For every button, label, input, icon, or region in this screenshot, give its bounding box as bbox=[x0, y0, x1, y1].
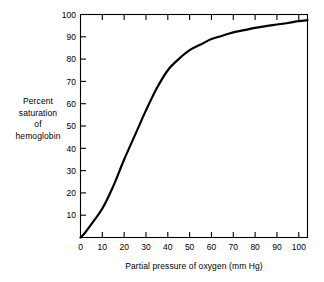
y-tick-label: 40 bbox=[67, 144, 77, 154]
y-axis-title-line-2: saturation bbox=[2, 108, 74, 120]
y-tick-label: 20 bbox=[67, 188, 77, 198]
data-curve-path bbox=[81, 20, 308, 237]
x-tick-label: 20 bbox=[119, 242, 129, 252]
y-axis-title-line-1: Percent bbox=[2, 96, 74, 108]
x-tick-label: 60 bbox=[207, 242, 217, 252]
y-tick-label: 70 bbox=[67, 77, 77, 87]
x-axis-title: Partial pressure of oxygen (mm Hg) bbox=[80, 261, 308, 271]
y-axis-title: Percent saturation of hemoglobin bbox=[2, 96, 74, 142]
oxygen-dissociation-chart: Percent saturation of hemoglobin Partial… bbox=[0, 0, 324, 282]
x-axis-tick-labels: 0102030405060708090100 bbox=[78, 242, 306, 252]
x-tick-label: 50 bbox=[185, 242, 195, 252]
y-axis-title-line-4: hemoglobin bbox=[2, 131, 74, 143]
y-axis-title-line-3: of bbox=[2, 119, 74, 131]
x-tick-label: 100 bbox=[292, 242, 306, 252]
y-tick-label: 30 bbox=[67, 166, 77, 176]
x-tick-label: 10 bbox=[98, 242, 108, 252]
y-tick-label: 80 bbox=[67, 54, 77, 64]
x-tick-label: 0 bbox=[78, 242, 83, 252]
x-axis-ticks bbox=[102, 15, 298, 238]
x-tick-label: 80 bbox=[250, 242, 260, 252]
y-tick-label: 100 bbox=[62, 10, 76, 20]
y-tick-label: 90 bbox=[67, 32, 77, 42]
x-tick-label: 40 bbox=[163, 242, 173, 252]
x-tick-label: 90 bbox=[272, 242, 282, 252]
x-tick-label: 30 bbox=[141, 242, 151, 252]
y-tick-label: 10 bbox=[67, 210, 77, 220]
y-axis-ticks bbox=[81, 37, 87, 215]
data-curve bbox=[81, 20, 308, 237]
x-tick-label: 70 bbox=[229, 242, 239, 252]
